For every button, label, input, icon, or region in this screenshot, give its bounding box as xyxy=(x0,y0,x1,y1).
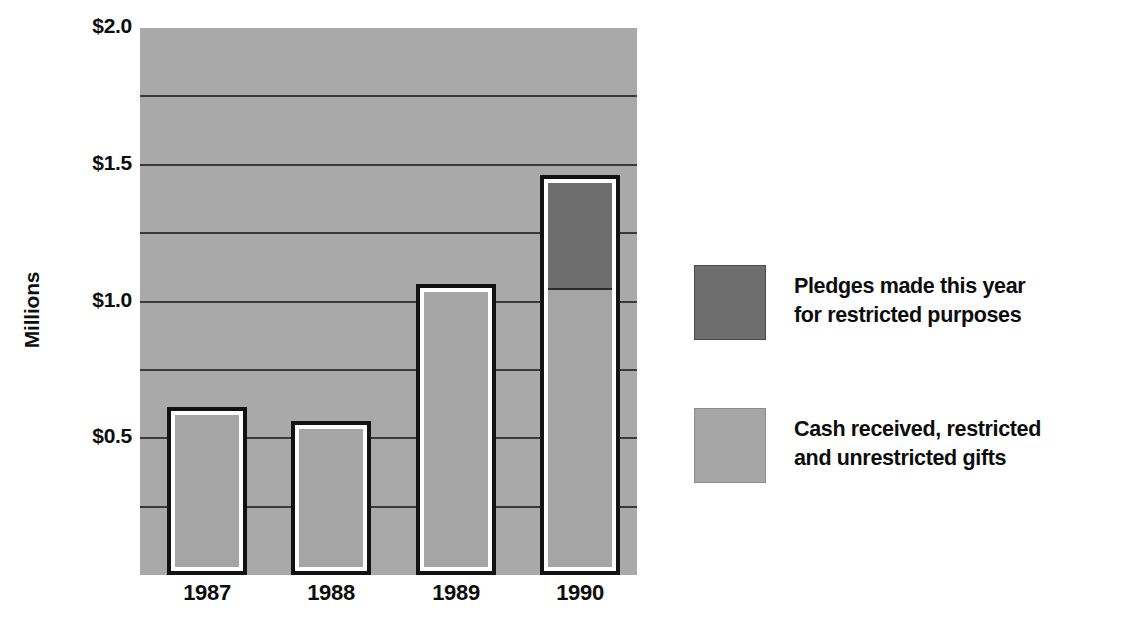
bar-chart-figure: Millions $2.0$1.5$1.0$0.5 19871988198919… xyxy=(0,0,1135,632)
bar-segment-cash-1989 xyxy=(424,292,488,567)
dark-gray-swatch xyxy=(694,265,766,340)
y-tick-label: $2.0 xyxy=(58,14,132,38)
bar-inner-1987 xyxy=(175,415,239,567)
chart-legend: Pledges made this year for restricted pu… xyxy=(694,265,1114,551)
legend-item-pledges: Pledges made this year for restricted pu… xyxy=(694,265,1114,340)
gridline xyxy=(140,95,637,97)
plot-area xyxy=(140,28,637,575)
bar-segment-cash-1988 xyxy=(299,429,363,567)
y-axis-title: Millions xyxy=(20,240,44,380)
y-tick-label: $0.5 xyxy=(58,424,132,448)
y-axis-tick-labels: $2.0$1.5$1.0$0.5 xyxy=(56,0,132,632)
legend-label-cash-line2: and unrestricted gifts xyxy=(794,444,1041,473)
bar-1987 xyxy=(167,407,247,575)
legend-item-cash: Cash received, restricted and unrestrict… xyxy=(694,408,1114,483)
x-tick-label-1988: 1988 xyxy=(281,580,381,606)
legend-label-pledges: Pledges made this year for restricted pu… xyxy=(794,265,1025,329)
gridline xyxy=(140,164,637,166)
bar-inner-1990 xyxy=(548,183,612,567)
bar-segment-cash-1990 xyxy=(548,290,612,567)
y-tick-label: $1.0 xyxy=(58,288,132,312)
x-tick-label-1989: 1989 xyxy=(406,580,506,606)
legend-label-pledges-line1: Pledges made this year xyxy=(794,272,1025,301)
plot-canvas xyxy=(140,28,637,575)
x-axis-tick-labels: 1987198819891990 xyxy=(140,580,637,614)
legend-label-pledges-line2: for restricted purposes xyxy=(794,301,1025,330)
bar-segment-pledges-1990 xyxy=(548,183,612,290)
light-gray-swatch xyxy=(694,408,766,483)
bar-1990 xyxy=(540,175,620,575)
bar-inner-1988 xyxy=(299,429,363,567)
x-tick-label-1987: 1987 xyxy=(157,580,257,606)
legend-label-cash-line1: Cash received, restricted xyxy=(794,415,1041,444)
bar-inner-1989 xyxy=(424,292,488,567)
y-tick-label: $1.5 xyxy=(58,151,132,175)
bar-segment-cash-1987 xyxy=(175,415,239,567)
bar-1989 xyxy=(416,284,496,575)
bar-1988 xyxy=(291,421,371,575)
x-tick-label-1990: 1990 xyxy=(530,580,630,606)
legend-label-cash: Cash received, restricted and unrestrict… xyxy=(794,408,1041,472)
